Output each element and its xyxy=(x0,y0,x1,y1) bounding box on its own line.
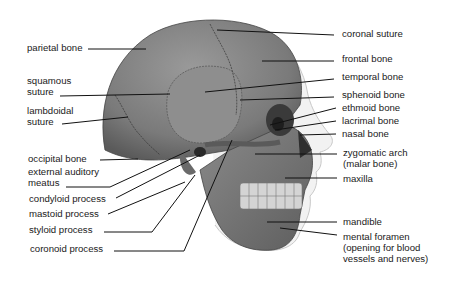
label-frontal-bone: frontal bone xyxy=(342,53,393,64)
skull-diagram: parietal bone squamous suture lambdoidal… xyxy=(0,0,460,285)
label-mental-foramen: mental foramen (opening for blood vessel… xyxy=(343,231,428,264)
label-ethmoid-bone: ethmoid bone xyxy=(342,102,400,113)
label-mandible: mandible xyxy=(343,216,382,227)
label-lambdoidal-suture: lambdoidal suture xyxy=(27,105,73,127)
label-maxilla: maxilla xyxy=(343,173,373,184)
label-coronal-suture: coronal suture xyxy=(342,28,403,39)
label-condyloid-process: condyloid process xyxy=(29,193,106,204)
label-nasal-bone: nasal bone xyxy=(342,128,389,139)
label-zygomatic-arch: zygomatic arch (malar bone) xyxy=(343,147,408,169)
label-parietal-bone: parietal bone xyxy=(27,42,82,53)
label-temporal-bone: temporal bone xyxy=(342,71,403,82)
label-sphenoid-bone: sphenoid bone xyxy=(342,89,405,100)
label-occipital-bone: occipital bone xyxy=(28,153,87,164)
label-squamous-suture: squamous suture xyxy=(27,75,71,97)
label-external-auditory-meatus: external auditory meatus xyxy=(28,166,99,188)
label-mastoid-process: mastoid process xyxy=(29,208,99,219)
label-coronoid-process: coronoid process xyxy=(30,243,103,254)
label-styloid-process: styloid process xyxy=(29,224,92,235)
label-lacrimal-bone: lacrimal bone xyxy=(342,115,399,126)
